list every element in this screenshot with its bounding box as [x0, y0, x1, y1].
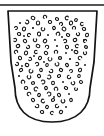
inclusion-mark: [68, 93, 70, 95]
inclusion-mark: [32, 27, 34, 29]
inclusion-mark: [62, 81, 64, 83]
inclusion-mark: [47, 34, 49, 36]
inclusion-mark: [21, 65, 23, 67]
inclusion-mark: [33, 55, 35, 57]
inclusion-mark: [71, 49, 73, 51]
inclusion-mark: [53, 96, 55, 98]
inclusion-mark: [54, 39, 56, 41]
inclusion-mark: [43, 61, 45, 63]
inclusion-mark: [69, 58, 71, 60]
inclusion-mark: [65, 106, 67, 108]
inclusion-mark: [23, 35, 25, 37]
inclusion-mark: [65, 52, 67, 54]
vessel-figure-canvas: [0, 0, 104, 136]
vessel-figure: [0, 0, 104, 136]
inclusion-mark: [19, 22, 21, 24]
inclusion-mark: [56, 45, 58, 47]
inclusion-mark: [83, 39, 85, 41]
inclusion-mark: [61, 36, 63, 38]
inclusion-mark: [84, 64, 86, 66]
inclusion-mark: [18, 75, 20, 77]
